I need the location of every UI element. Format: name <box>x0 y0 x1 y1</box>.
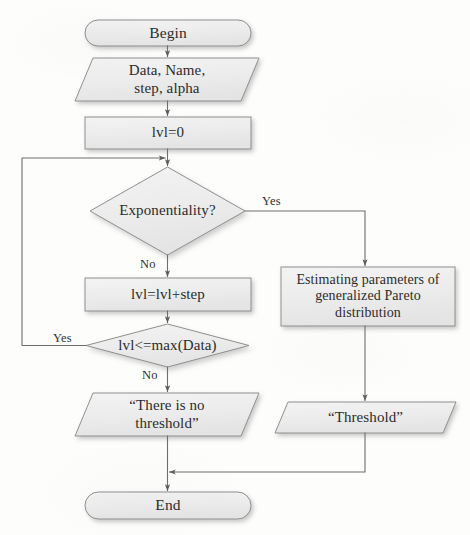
node-no-threshold-shape <box>75 393 259 436</box>
node-increment-shape <box>85 278 251 311</box>
edge-exponentiality-yes-to-estimate <box>245 211 365 266</box>
flowchart-shapes-and-connectors <box>0 0 470 535</box>
node-input-shape <box>75 58 259 101</box>
node-exponentiality-shape <box>90 167 245 255</box>
node-estimate-shape <box>281 267 455 326</box>
node-begin-shape <box>85 20 251 46</box>
node-loop-check-shape <box>86 324 249 367</box>
node-threshold-out-shape <box>275 402 456 433</box>
edge-threshold-out-to-end <box>170 433 366 472</box>
node-init-shape <box>85 117 251 149</box>
flowchart-canvas: Begin Data, Name, step, alpha lvl=0 Expo… <box>0 0 470 535</box>
node-end-shape <box>85 492 251 519</box>
